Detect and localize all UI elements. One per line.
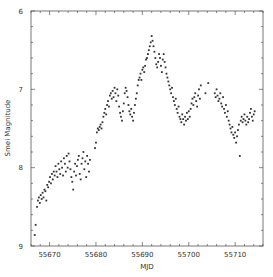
data-point [215,96,217,98]
data-point [134,104,136,106]
data-point [61,167,63,169]
data-point [71,181,73,183]
data-point [132,120,134,122]
data-point [126,90,128,92]
data-point [153,45,155,47]
data-point [87,163,89,165]
data-point [117,95,119,97]
data-point [70,168,72,170]
data-point [44,189,46,191]
data-point [62,175,64,177]
data-point [79,173,81,175]
data-point [238,124,240,126]
data-point [199,98,201,100]
data-point [247,121,249,123]
data-point [65,171,67,173]
data-point [186,112,188,114]
data-point [40,194,42,196]
data-point [130,108,132,110]
x-tick-label: 55680 [85,251,107,259]
y-tick-label: 6 [19,8,24,16]
data-point [63,157,65,159]
data-point [188,110,190,112]
data-point [254,110,256,112]
x-tick-label: 55670 [38,251,60,259]
data-point [253,114,255,116]
data-point [195,100,197,102]
data-point [193,104,195,106]
data-point [78,155,80,157]
data-point [124,92,126,94]
data-point [53,171,55,173]
data-point [187,118,189,120]
data-point [51,173,53,175]
data-point [36,206,38,208]
data-point [96,132,98,134]
data-point [171,87,173,89]
data-point [161,71,163,73]
data-point [50,182,52,184]
data-point [181,114,183,116]
data-point [56,171,58,173]
data-point [217,95,219,97]
data-point [223,108,225,110]
data-point [154,57,156,59]
data-point [158,53,160,55]
data-point [249,112,251,114]
data-point [221,106,223,108]
data-point [250,108,252,110]
data-point [43,197,45,199]
data-point [193,96,195,98]
data-point [125,87,127,89]
data-point [58,168,60,170]
data-point [82,157,84,159]
data-point [244,114,246,116]
data-point [164,61,166,63]
data-point [222,96,224,98]
data-point [159,57,161,59]
data-point [146,57,148,59]
data-point [160,65,162,67]
plot-frame [31,11,263,246]
data-point [84,161,86,163]
data-point [102,116,104,118]
data-point [231,132,233,134]
data-point [97,128,99,130]
data-point [189,116,191,118]
data-point [200,85,202,87]
data-point [179,116,181,118]
data-point [142,67,144,69]
data-point [127,96,129,98]
data-point [88,171,90,173]
data-point [108,106,110,108]
data-point [168,85,170,87]
data-point [105,114,107,116]
data-point [110,92,112,94]
data-point [111,98,113,100]
data-point [80,179,82,181]
data-point [139,77,141,79]
data-point [54,175,56,177]
data-point [227,110,229,112]
data-point [76,165,78,167]
data-point [180,118,182,120]
data-point [66,155,68,157]
data-point [226,116,228,118]
data-point [46,184,48,186]
data-point [198,88,200,90]
data-point [178,106,180,108]
data-point [169,88,171,90]
data-point [147,53,149,55]
data-point [137,85,139,87]
y-tick-label: 7 [19,86,23,94]
data-point [103,112,105,114]
data-point [219,92,221,94]
data-point [99,126,101,128]
data-point [152,40,154,42]
data-point [220,103,222,105]
data-point [136,92,138,94]
data-point [116,88,118,90]
data-point [115,100,117,102]
data-point [251,116,253,118]
data-point [233,137,235,139]
